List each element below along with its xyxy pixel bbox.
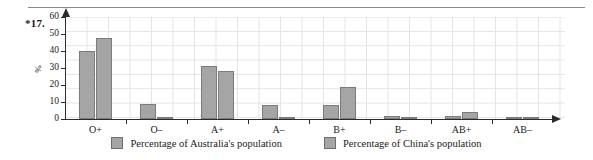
x-axis-tick	[187, 119, 188, 124]
bar	[157, 117, 174, 119]
y-axis-tick-label: 20	[50, 80, 60, 90]
bar	[323, 105, 340, 119]
x-axis-arrow	[552, 115, 561, 123]
y-axis-tick-label: 10	[50, 97, 60, 107]
x-axis-tick	[492, 119, 493, 124]
x-axis-tick	[431, 119, 432, 124]
x-axis-tick	[248, 119, 249, 124]
y-axis-arrow	[62, 8, 70, 17]
y-axis-tick-label: 40	[50, 46, 60, 56]
bar	[218, 71, 235, 119]
x-axis-tick	[370, 119, 371, 124]
bar	[279, 117, 296, 119]
bar	[384, 116, 401, 119]
bar	[401, 117, 418, 119]
legend-swatch-icon	[324, 137, 336, 149]
y-axis-tick-label: 60	[50, 12, 60, 22]
question-number: *17.	[25, 17, 45, 29]
y-axis-title: %	[33, 65, 43, 73]
x-axis-tick	[126, 119, 127, 124]
chart-page: *17. % 0102030405060 O+O–A+A–B+B–AB+AB– …	[0, 0, 593, 160]
bar	[140, 104, 157, 119]
bar	[79, 51, 96, 119]
y-axis-tick-label: 0	[54, 114, 59, 124]
top-divider-rule	[28, 7, 585, 8]
y-axis-tick	[61, 119, 66, 120]
legend-item-australia: Percentage of Australia's population	[111, 137, 281, 149]
chart-legend: Percentage of Australia's population Per…	[0, 130, 593, 156]
y-axis-tick-label: 50	[50, 29, 60, 39]
legend-swatch-icon	[111, 137, 123, 149]
bar	[340, 87, 357, 119]
bar	[96, 38, 113, 119]
bar-chart: % 0102030405060 O+O–A+A–B+B–AB+AB–	[65, 17, 565, 120]
legend-item-china: Percentage of China's population	[324, 137, 482, 149]
y-axis-tick-label: 30	[50, 63, 60, 73]
bar	[445, 116, 462, 119]
bar	[262, 105, 279, 119]
bar	[523, 117, 540, 119]
plot-area	[65, 17, 553, 119]
bar	[506, 117, 523, 119]
legend-label-australia: Percentage of Australia's population	[130, 138, 281, 149]
x-axis-tick	[309, 119, 310, 124]
bar	[201, 66, 218, 119]
legend-label-china: Percentage of China's population	[343, 138, 482, 149]
bar	[462, 112, 479, 119]
